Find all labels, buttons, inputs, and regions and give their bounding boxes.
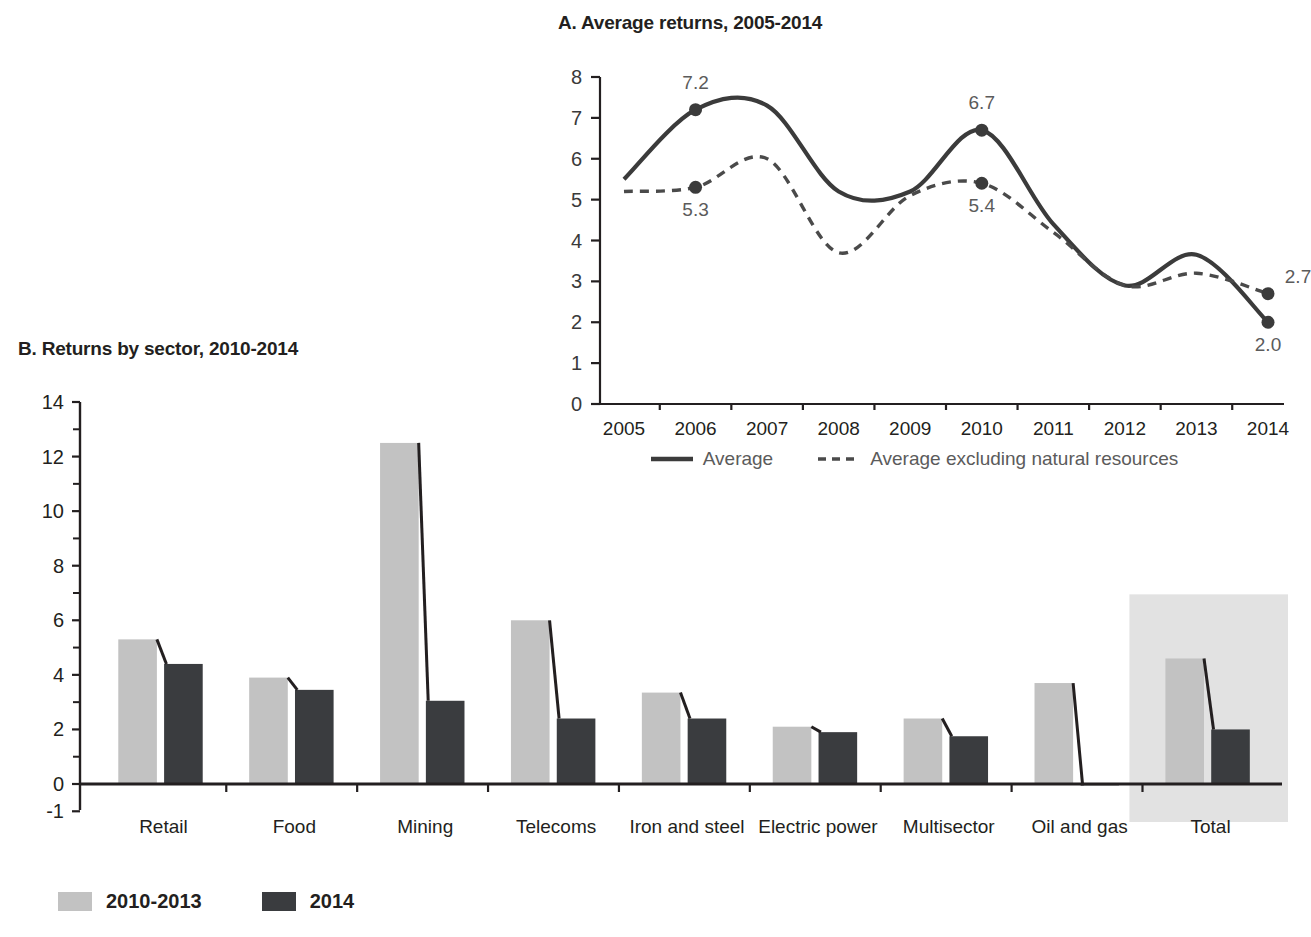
data-point-label: 5.3 [682,199,708,221]
bar-2010-2013 [118,639,157,784]
bar-2010-2013 [642,693,681,784]
bar-2014 [1211,729,1250,784]
bar-connector-line [680,693,690,719]
bar-2014 [164,664,203,784]
y-axis-tick-label: -1 [12,800,64,823]
bar-2010-2013 [380,443,419,784]
y-axis-tick-label: 2 [12,718,64,741]
x-axis-category-label: Oil and gas [1032,816,1128,838]
panel-b-legend: 2010-20132014 [58,890,354,913]
x-axis-category-label: Iron and steel [629,816,744,838]
bar-chart-plot-area: -102468101214RetailFoodMiningTelecomsIro… [72,392,1288,822]
y-axis-tick-label: 5 [552,188,582,211]
total-highlight-band [1129,594,1288,822]
bar-connector-line [550,620,560,718]
bar-2010-2013 [511,620,550,784]
legend-label: 2014 [310,890,355,913]
y-axis-tick-label: 3 [552,270,582,293]
bar-connector-line [157,639,167,664]
bar-2014 [949,736,988,784]
data-point-label: 7.2 [682,72,708,94]
data-point-label: 5.4 [969,195,995,217]
x-axis-category-label: Telecoms [516,816,596,838]
bar-2010-2013 [249,678,288,784]
data-point-marker [1262,287,1275,300]
x-axis-category-label: Multisector [903,816,995,838]
bar-connector-line [288,678,298,690]
y-axis-tick-label: 4 [12,663,64,686]
y-axis-tick-label: 10 [12,500,64,523]
bar-connector-line [811,727,821,732]
x-axis-category-label: Food [273,816,316,838]
data-point-label: 2.7 [1285,266,1311,288]
bar-2010-2013 [773,727,812,784]
data-point-label: 6.7 [969,92,995,114]
x-axis-category-label: Electric power [758,816,877,838]
y-axis-tick-label: 4 [552,229,582,252]
y-axis-tick-label: 14 [12,391,64,414]
bar-chart-svg [72,392,1288,822]
legend-swatch [262,892,296,911]
bar-connector-line [419,443,429,701]
bar-2014 [557,719,596,784]
data-point-marker [1262,316,1275,329]
data-point-marker [689,181,702,194]
panel-b-title: B. Returns by sector, 2010-2014 [18,338,298,360]
panel-a-title: A. Average returns, 2005-2014 [558,12,822,34]
legend-item-2010-2013: 2010-2013 [58,890,202,913]
data-point-marker [689,103,702,116]
bar-2010-2013 [1165,658,1204,784]
data-point-marker [975,124,988,137]
x-axis-category-label: Retail [139,816,188,838]
panel-b-returns-by-sector: B. Returns by sector, 2010-2014 -1024681… [0,330,1288,937]
bar-2010-2013 [904,719,943,784]
line-series-average [624,98,1268,323]
bar-2014 [688,719,727,784]
y-axis-tick-label: 8 [12,554,64,577]
y-axis-tick-label: 6 [12,609,64,632]
bar-2010-2013 [1035,683,1074,784]
bar-connector-line [942,719,952,737]
data-point-marker [975,177,988,190]
bar-2014 [295,690,334,784]
y-axis-tick-label: 7 [552,106,582,129]
legend-item-2014: 2014 [262,890,355,913]
y-axis-tick-label: 8 [552,66,582,89]
y-axis-tick-label: 6 [552,147,582,170]
bar-2014 [819,732,858,784]
line-series-excluding-natural-resources [624,157,1268,294]
y-axis-tick-label: 12 [12,445,64,468]
x-axis-category-label: Total [1190,816,1230,838]
x-axis-category-label: Mining [397,816,453,838]
bar-connector-line [1073,683,1083,785]
bar-2014 [426,701,465,784]
legend-label: 2010-2013 [106,890,202,913]
y-axis-tick-label: 0 [12,773,64,796]
legend-swatch [58,892,92,911]
